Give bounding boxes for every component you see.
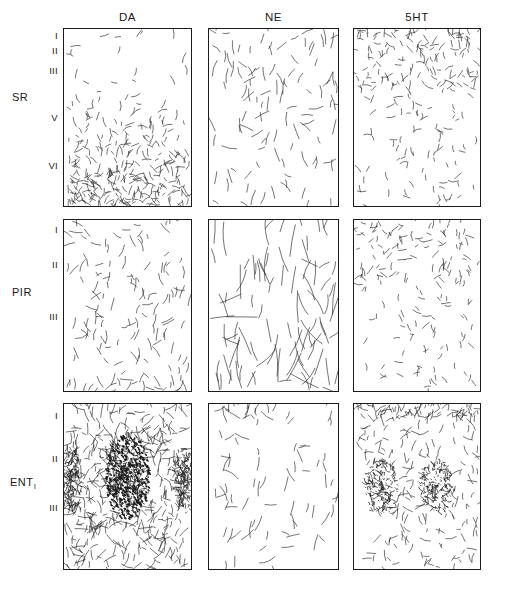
- layer-label-ent-2: II: [36, 454, 58, 464]
- row-label-ent: ENTl: [10, 476, 36, 491]
- panel-ent-5ht: [353, 403, 481, 570]
- panel-ent-ne: [208, 403, 339, 570]
- layer-label-sr-6-text: VI: [48, 160, 58, 171]
- layer-label-ent-3: III: [36, 503, 58, 513]
- column-header-ne: NE: [208, 11, 339, 23]
- row-label-pir-text: PIR: [12, 286, 32, 298]
- fiber-plot-pir-da: [64, 220, 191, 391]
- column-header-ne-label: NE: [265, 11, 282, 23]
- layer-label-sr-3-text: III: [49, 65, 58, 76]
- column-header-da: DA: [63, 11, 192, 23]
- layer-label-sr-1-text: I: [55, 30, 58, 41]
- layer-label-sr-1: I: [36, 31, 58, 41]
- figure-root: DA NE 5HT SR PIR ENTl I II III V VI I II…: [0, 0, 505, 590]
- panel-sr-ne: [208, 28, 339, 207]
- layer-label-pir-1: I: [36, 225, 58, 235]
- layer-label-ent-2-text: II: [52, 453, 58, 464]
- layer-label-ent-3-text: III: [49, 502, 58, 513]
- panel-pir-da: [63, 219, 192, 392]
- row-label-ent-subscript: l: [34, 482, 36, 491]
- layer-label-pir-3-text: III: [49, 311, 58, 322]
- layer-label-ent-1-text: I: [55, 410, 58, 421]
- panel-sr-5ht: [353, 28, 481, 207]
- fiber-plot-sr-5ht: [354, 29, 480, 206]
- layer-label-sr-5: V: [36, 113, 58, 123]
- fiber-plot-ent-ne: [209, 404, 338, 569]
- fiber-plot-sr-da: [64, 29, 191, 206]
- layer-label-ent-1: I: [36, 411, 58, 421]
- fiber-plot-pir-ne: [209, 220, 338, 391]
- fiber-plot-sr-ne: [209, 29, 338, 206]
- layer-label-pir-2: II: [36, 260, 58, 270]
- layer-label-pir-1-text: I: [55, 224, 58, 235]
- panel-sr-da: [63, 28, 192, 207]
- row-label-sr-text: SR: [12, 91, 28, 103]
- row-label-ent-text: ENT: [10, 476, 34, 488]
- row-label-pir: PIR: [12, 286, 32, 298]
- layer-label-sr-6: VI: [36, 161, 58, 171]
- layer-label-sr-3: III: [36, 66, 58, 76]
- column-header-5ht-label: 5HT: [405, 11, 429, 23]
- layer-label-pir-3: III: [36, 312, 58, 322]
- column-header-5ht: 5HT: [353, 11, 481, 23]
- panel-ent-da: [63, 403, 192, 570]
- panel-pir-ne: [208, 219, 339, 392]
- layer-label-sr-5-text: V: [51, 112, 58, 123]
- layer-label-sr-2: II: [36, 46, 58, 56]
- row-label-sr: SR: [12, 91, 28, 103]
- fiber-plot-pir-5ht: [354, 220, 480, 391]
- fiber-plot-ent-da: [64, 404, 191, 569]
- layer-label-pir-2-text: II: [52, 259, 58, 270]
- fiber-plot-ent-5ht: [354, 404, 480, 569]
- layer-label-sr-2-text: II: [52, 45, 58, 56]
- column-header-da-label: DA: [119, 11, 136, 23]
- panel-pir-5ht: [353, 219, 481, 392]
